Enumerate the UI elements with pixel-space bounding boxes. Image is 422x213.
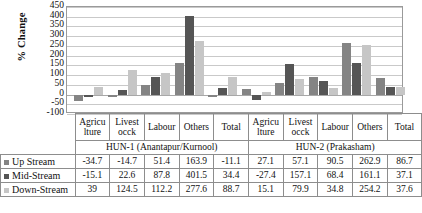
legend-label: Down-Stream	[12, 184, 68, 195]
column-header-8: Others	[353, 114, 388, 141]
y-axis-title: % Change	[16, 0, 30, 82]
bar	[141, 85, 150, 95]
data-cell: 87.8	[144, 169, 179, 183]
column-header-6: Livestocck	[283, 114, 318, 141]
legend-item-0: Up Stream	[1, 155, 76, 169]
bar-group	[201, 7, 235, 112]
group-label-1: HUN-2 (Prakasham)	[248, 141, 421, 155]
bar	[319, 81, 328, 94]
legend-swatch-icon	[4, 174, 9, 179]
table-row: Down-Stream39124.5112.2277.688.715.179.9…	[1, 183, 422, 197]
bar	[285, 64, 294, 95]
table-blank-cell	[1, 141, 76, 155]
bar-groups	[67, 7, 402, 112]
data-cell: -15.1	[75, 169, 110, 183]
data-cell: -34.7	[75, 155, 110, 169]
plot-area	[66, 6, 403, 113]
bar-group	[67, 7, 101, 112]
legend-label: Mid-Stream	[12, 170, 60, 181]
table-header-row: AgricultureLivestocckLabourOthersTotalAg…	[1, 114, 422, 141]
bar	[84, 95, 93, 98]
bar-group	[369, 7, 403, 112]
column-header-1: Livestocck	[110, 114, 145, 141]
bar	[175, 63, 184, 95]
bar	[242, 89, 251, 94]
data-cell: -14.7	[110, 155, 145, 169]
legend-item-2: Down-Stream	[1, 183, 76, 197]
column-header-5: Agriculture	[248, 114, 283, 141]
data-cell: 39	[75, 183, 110, 197]
bar	[342, 43, 351, 94]
bar	[218, 88, 227, 95]
data-cell: 51.4	[144, 155, 179, 169]
bar-group	[302, 7, 336, 112]
legend-item-1: Mid-Stream	[1, 169, 76, 183]
bar	[396, 87, 405, 94]
bar-group	[335, 7, 369, 112]
data-cell: -27.4	[248, 169, 283, 183]
data-cell: 90.5	[318, 155, 353, 169]
table-corner-cell	[1, 114, 76, 141]
data-cell: 157.1	[283, 169, 318, 183]
data-cell: 34.8	[318, 183, 353, 197]
column-header-4: Total	[214, 114, 249, 141]
column-header-3: Others	[179, 114, 214, 141]
bar	[376, 78, 385, 95]
bar	[275, 83, 284, 94]
bar-group	[134, 7, 168, 112]
column-header-2: Labour	[144, 114, 179, 141]
data-cell: 262.9	[353, 155, 388, 169]
column-header-7: Labour	[318, 114, 353, 141]
bar	[74, 95, 83, 102]
table-group-row: HUN-1 (Anantapur/Kurnool)HUN-2 (Prakasha…	[1, 141, 422, 155]
bar	[208, 95, 217, 97]
table-row: Mid-Stream-15.122.687.8401.534.4-27.4157…	[1, 169, 422, 183]
y-axis-tick-labels: 450400350300250200150100500-50-100	[30, 6, 64, 113]
data-cell: 163.9	[179, 155, 214, 169]
data-cell: 57.1	[283, 155, 318, 169]
data-table: AgricultureLivestocckLabourOthersTotalAg…	[0, 113, 422, 197]
column-header-9: Total	[387, 114, 422, 141]
data-cell: 254.2	[353, 183, 388, 197]
bar	[309, 77, 318, 95]
bar	[386, 87, 395, 94]
legend-swatch-icon	[4, 188, 9, 193]
column-header-0: Agriculture	[75, 114, 110, 141]
bar	[352, 63, 361, 94]
group-label-0: HUN-1 (Anantapur/Kurnool)	[75, 141, 248, 155]
bar-group	[268, 7, 302, 112]
legend-swatch-icon	[4, 160, 9, 165]
bar	[252, 95, 261, 100]
bar-group	[168, 7, 202, 112]
bar	[185, 16, 194, 94]
data-cell: 68.4	[318, 169, 353, 183]
data-cell: 86.7	[387, 155, 422, 169]
data-cell: -11.1	[214, 155, 249, 169]
data-cell: 37.6	[387, 183, 422, 197]
data-cell: 277.6	[179, 183, 214, 197]
data-cell: 401.5	[179, 169, 214, 183]
table-row: Up Stream-34.7-14.751.4163.9-11.127.157.…	[1, 155, 422, 169]
bar	[118, 90, 127, 94]
data-cell: 27.1	[248, 155, 283, 169]
data-cell: 161.1	[353, 169, 388, 183]
data-cell: 15.1	[248, 183, 283, 197]
data-cell: 124.5	[110, 183, 145, 197]
bar	[151, 77, 160, 94]
bar	[108, 95, 117, 98]
legend-label: Up Stream	[12, 156, 55, 167]
data-cell: 34.4	[214, 169, 249, 183]
data-cell: 22.6	[110, 169, 145, 183]
data-cell: 88.7	[214, 183, 249, 197]
data-cell: 79.9	[283, 183, 318, 197]
data-cell: 37.1	[387, 169, 422, 183]
data-cell: 112.2	[144, 183, 179, 197]
bar-group	[235, 7, 269, 112]
bar-group	[101, 7, 135, 112]
